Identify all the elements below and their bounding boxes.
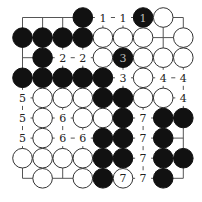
move-label: 2 (79, 52, 86, 65)
black-stone (174, 108, 194, 128)
black-stone (53, 68, 73, 88)
white-stone (73, 108, 93, 128)
white-stone (133, 48, 153, 68)
black-stone (113, 88, 133, 108)
move-label: 5 (19, 132, 26, 145)
move-label: 7 (140, 172, 147, 185)
go-board: 111223344455566677777 (0, 0, 202, 202)
move-label: 7 (140, 112, 147, 125)
move-label: 7 (120, 172, 127, 185)
white-stone (53, 88, 73, 108)
black-stone (153, 108, 173, 128)
black-stone (153, 128, 173, 148)
white-stone (174, 28, 194, 48)
white-stone (93, 28, 113, 48)
move-label: 1 (99, 12, 106, 25)
white-stone (33, 128, 53, 148)
move-label: 3 (120, 72, 127, 85)
black-stone (13, 68, 33, 88)
white-stone (153, 8, 173, 28)
black-stone (153, 148, 173, 168)
black-stone (93, 169, 113, 189)
white-stone (53, 148, 73, 168)
white-stone (33, 88, 53, 108)
move-label: 3 (120, 52, 127, 65)
black-stone (93, 68, 113, 88)
white-stone (174, 48, 194, 68)
white-stone (13, 148, 33, 168)
white-stone (153, 88, 173, 108)
black-stone (113, 148, 133, 168)
move-label: 4 (180, 92, 187, 105)
white-stone (153, 48, 173, 68)
black-stone (93, 128, 113, 148)
black-stone (93, 148, 113, 168)
white-stone (113, 28, 133, 48)
move-label: 2 (59, 52, 66, 65)
black-stone (13, 28, 33, 48)
white-stone (33, 169, 53, 189)
white-stone (73, 148, 93, 168)
white-stone (73, 169, 93, 189)
black-stone (33, 28, 53, 48)
move-label: 4 (180, 72, 187, 85)
black-stone (113, 128, 133, 148)
black-stone (73, 68, 93, 88)
black-stone (73, 28, 93, 48)
move-label: 6 (79, 132, 86, 145)
move-label: 6 (59, 132, 66, 145)
white-stone (73, 88, 93, 108)
black-stone (113, 108, 133, 128)
go-board-diagram: 111223344455566677777 (0, 0, 202, 202)
move-label: 7 (140, 132, 147, 145)
white-stone (33, 108, 53, 128)
white-stone (133, 28, 153, 48)
black-stone (73, 8, 93, 28)
black-stone (174, 148, 194, 168)
move-label: 1 (140, 12, 147, 25)
white-stone (33, 148, 53, 168)
black-stone (33, 68, 53, 88)
white-stone (133, 88, 153, 108)
move-label: 5 (19, 112, 26, 125)
white-stone (93, 48, 113, 68)
move-label: 1 (120, 12, 127, 25)
black-stone (53, 28, 73, 48)
white-stone (93, 108, 113, 128)
white-stone (133, 68, 153, 88)
black-stone (33, 48, 53, 68)
black-stone (93, 88, 113, 108)
move-label: 6 (59, 112, 66, 125)
move-label: 7 (140, 152, 147, 165)
move-label: 4 (160, 72, 167, 85)
black-stone (153, 169, 173, 189)
move-label: 5 (19, 92, 26, 105)
